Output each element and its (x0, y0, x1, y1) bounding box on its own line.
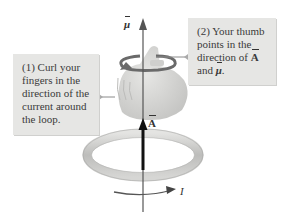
step-2-vector-A: A (251, 51, 259, 64)
right-hand-rule-diagram: (1) Curl your fingers in the direction o… (0, 0, 288, 224)
mu-arrowhead-icon (139, 18, 147, 30)
A-symbol: A (148, 117, 156, 129)
current-arrow-icon (114, 186, 176, 195)
A-label: A (148, 117, 156, 129)
step-2-period: . (222, 64, 225, 76)
mu-label: μ (124, 18, 130, 30)
step-1-text: (1) Curl your fingers in the direction o… (22, 61, 89, 125)
step-2-vector-mu: μ (216, 64, 222, 77)
step-2-and: and (197, 64, 216, 76)
callout-step-2: (2) Your thumb points in the direction o… (188, 18, 276, 85)
mu-symbol: μ (124, 18, 130, 30)
callout-step-1: (1) Curl your fingers in the direction o… (13, 54, 99, 135)
current-label: I (180, 185, 184, 197)
